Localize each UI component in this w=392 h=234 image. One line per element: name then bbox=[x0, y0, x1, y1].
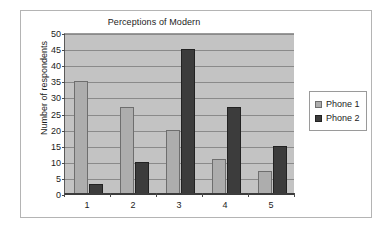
x-tick-label-1: 1 bbox=[84, 200, 89, 210]
gridline-40 bbox=[65, 66, 294, 67]
y-tick-mark-5 bbox=[62, 179, 65, 180]
legend-item-phone-2: Phone 2 bbox=[315, 111, 360, 125]
bar-phone-2-cat-5 bbox=[273, 146, 287, 194]
y-tick-mark-45 bbox=[62, 50, 65, 51]
gridline-15 bbox=[65, 147, 294, 148]
gridline-50 bbox=[65, 34, 294, 35]
y-tick-label-5: 5 bbox=[56, 174, 61, 184]
bar-phone-2-cat-3 bbox=[181, 49, 195, 194]
chart-title-text: Perceptions of Modern bbox=[108, 17, 201, 27]
y-tick-label-50: 50 bbox=[51, 29, 61, 39]
y-tick-label-0: 0 bbox=[56, 190, 61, 200]
gridline-10 bbox=[65, 163, 294, 164]
chart-frame: Perceptions of Modern Number of responde… bbox=[20, 10, 372, 218]
legend-swatch-icon-2 bbox=[315, 115, 322, 122]
bar-phone-1-cat-1 bbox=[74, 81, 88, 194]
y-tick-mark-35 bbox=[62, 82, 65, 83]
y-tick-mark-20 bbox=[62, 131, 65, 132]
bar-phone-2-cat-4 bbox=[227, 107, 241, 194]
x-tick-mark-3 bbox=[156, 193, 157, 197]
y-tick-mark-30 bbox=[62, 98, 65, 99]
y-tick-label-30: 30 bbox=[51, 93, 61, 103]
x-axis: 12345 bbox=[64, 193, 294, 194]
y-tick-label-10: 10 bbox=[51, 158, 61, 168]
x-tick-mark-1 bbox=[64, 193, 65, 197]
bar-phone-1-cat-3 bbox=[166, 130, 180, 194]
legend-label: Phone 1 bbox=[326, 99, 360, 109]
x-tick-label-3: 3 bbox=[176, 200, 181, 210]
y-tick-label-35: 35 bbox=[51, 77, 61, 87]
y-tick-mark-15 bbox=[62, 147, 65, 148]
bar-phone-2-cat-2 bbox=[135, 162, 149, 194]
legend-label: Phone 2 bbox=[326, 113, 360, 123]
x-tick-mark-5 bbox=[248, 193, 249, 197]
chart-title: Perceptions of Modern bbox=[21, 17, 371, 27]
y-axis-title: Number of respondents bbox=[39, 18, 49, 158]
y-tick-label-40: 40 bbox=[51, 61, 61, 71]
x-tick-label-2: 2 bbox=[130, 200, 135, 210]
bar-phone-1-cat-4 bbox=[212, 159, 226, 194]
x-tick-mark-4 bbox=[202, 193, 203, 197]
x-tick-label-4: 4 bbox=[222, 200, 227, 210]
gridline-35 bbox=[65, 82, 294, 83]
y-tick-label-45: 45 bbox=[51, 45, 61, 55]
plot-inner: 05101520253035404550 bbox=[65, 34, 294, 194]
gridline-45 bbox=[65, 50, 294, 51]
bar-phone-1-cat-2 bbox=[120, 107, 134, 194]
x-tick-label-5: 5 bbox=[268, 200, 273, 210]
legend-swatch-icon-1 bbox=[315, 101, 322, 108]
y-tick-label-15: 15 bbox=[51, 142, 61, 152]
y-tick-label-20: 20 bbox=[51, 126, 61, 136]
x-tick-mark-end bbox=[294, 193, 295, 197]
gridline-25 bbox=[65, 115, 294, 116]
gridline-20 bbox=[65, 131, 294, 132]
y-tick-mark-50 bbox=[62, 34, 65, 35]
y-tick-mark-10 bbox=[62, 163, 65, 164]
gridline-30 bbox=[65, 98, 294, 99]
gridline-0 bbox=[65, 194, 294, 195]
y-tick-mark-40 bbox=[62, 66, 65, 67]
y-tick-mark-25 bbox=[62, 115, 65, 116]
plot-area: 05101520253035404550 bbox=[64, 33, 294, 194]
chart-legend: Phone 1Phone 2 bbox=[309, 91, 367, 131]
x-tick-mark-2 bbox=[110, 193, 111, 197]
legend-item-phone-1: Phone 1 bbox=[315, 97, 360, 111]
bar-phone-1-cat-5 bbox=[258, 171, 272, 194]
y-tick-label-25: 25 bbox=[51, 110, 61, 120]
